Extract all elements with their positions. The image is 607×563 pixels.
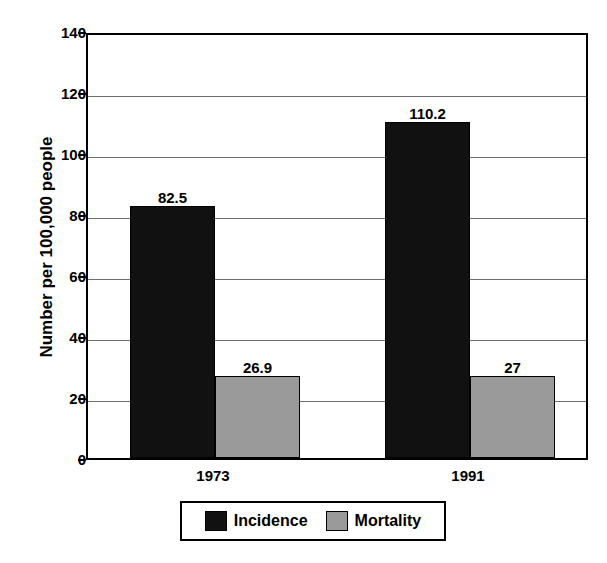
y-axis-ticks: 020406080100120140: [0, 33, 86, 460]
gridline: [88, 157, 586, 158]
bar-incidence-1973: [130, 206, 215, 458]
gridline: [88, 96, 586, 97]
bar-value-label: 26.9: [215, 360, 300, 376]
bar-chart: Number per 100,000 people 02040608010012…: [0, 0, 607, 563]
y-axis-tick-label: 60: [18, 269, 86, 284]
legend-entry-incidence[interactable]: Incidence: [196, 511, 317, 531]
bar-value-label: 27: [470, 360, 555, 376]
y-axis-tick-label: 0: [18, 452, 86, 467]
bar-value-label: 82.5: [130, 190, 215, 206]
y-axis-tick-label: 20: [18, 391, 86, 406]
bar-value-label: 110.2: [385, 106, 470, 122]
legend-label: Mortality: [355, 512, 422, 530]
bar-incidence-1991: [385, 122, 470, 458]
y-axis-tick-mark: [78, 215, 86, 217]
y-axis-tick-mark: [78, 154, 86, 156]
y-axis-tick-label: 120: [18, 86, 86, 101]
y-axis-tick-label: 100: [18, 147, 86, 162]
y-axis-tick-mark: [78, 32, 86, 34]
legend-swatch-icon: [326, 511, 348, 531]
y-axis-tick-label: 80: [18, 208, 86, 223]
y-axis-tick-mark: [78, 337, 86, 339]
y-axis-tick-mark: [78, 398, 86, 400]
bar-mortality-1973: [215, 376, 300, 458]
y-axis-tick-mark: [78, 459, 86, 461]
bar-mortality-1991: [470, 376, 555, 458]
y-axis-tick-mark: [78, 93, 86, 95]
legend-entry-mortality[interactable]: Mortality: [317, 511, 431, 531]
legend-label: Incidence: [234, 512, 308, 530]
x-axis-category-label: 1991: [383, 468, 553, 484]
legend-swatch-icon: [205, 511, 227, 531]
plot-area: 82.526.9110.227: [86, 33, 588, 460]
y-axis-tick-label: 140: [18, 25, 86, 40]
y-axis-tick-label: 40: [18, 330, 86, 345]
x-axis-category-label: 1973: [128, 468, 298, 484]
chart-legend: IncidenceMortality: [180, 501, 446, 541]
y-axis-tick-mark: [78, 276, 86, 278]
